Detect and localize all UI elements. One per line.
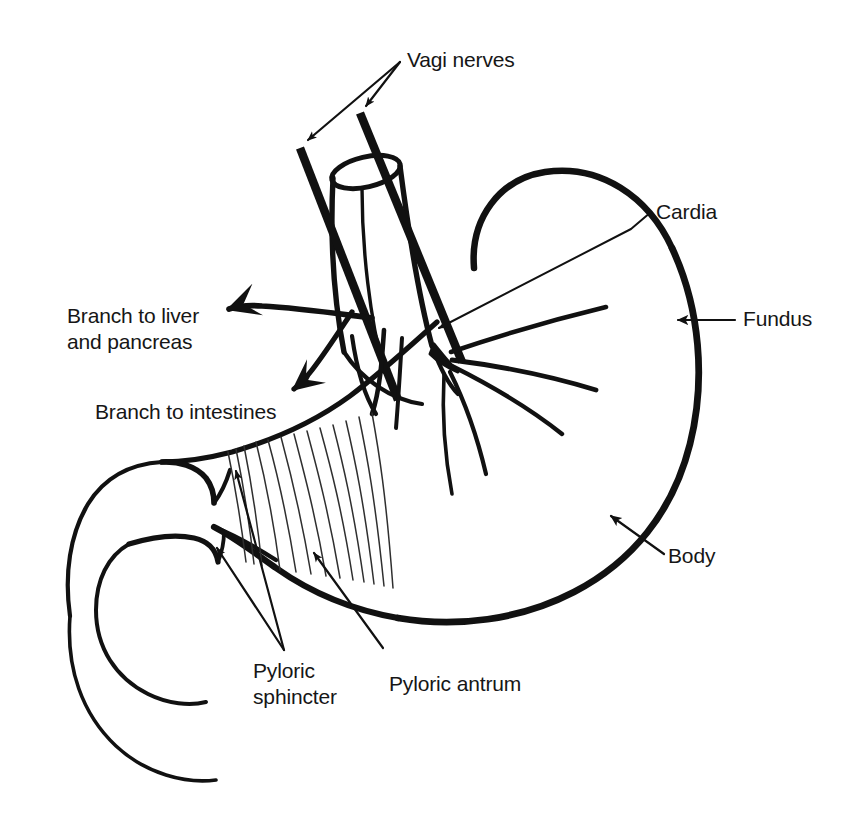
vagi-nerves-leader-right — [366, 62, 400, 106]
vagi-nerves-leader-left — [308, 62, 400, 140]
label-pyloric-antrum: Pyloric antrum — [389, 671, 521, 697]
nerve-branches — [229, 306, 606, 494]
diagram-canvas: Vagi nerves Cardia Fundus Body Branch to… — [0, 0, 846, 821]
stomach-outline — [162, 171, 699, 622]
pyloric-sphincter-upper-inner — [214, 470, 230, 503]
duodenum-inner-curl — [96, 544, 206, 704]
cardia-leader — [439, 212, 651, 328]
label-fundus: Fundus — [743, 306, 812, 332]
label-branch-to-liver-line1: Branch to liver — [67, 303, 199, 329]
label-cardia: Cardia — [656, 199, 717, 225]
duodenum-outer-curl — [69, 616, 216, 781]
nerve-branch-fan-5 — [443, 374, 452, 494]
pyloric-sphincter-and-duodenum — [68, 462, 276, 781]
nerve-branch-fan-4 — [450, 372, 486, 474]
pyloric-sphincter-upper-notch — [162, 462, 214, 503]
label-vagi-nerves: Vagi nerves — [407, 47, 515, 73]
nerve-branch-anterior-gastric-3 — [396, 338, 402, 428]
label-branch-to-intestines: Branch to intestines — [95, 399, 276, 425]
nerve-branch-fan-1 — [451, 307, 606, 352]
label-body: Body — [668, 543, 715, 569]
pyloric-sphincter-lower-notch — [129, 536, 218, 562]
label-pyloric-sphincter-line1: Pyloric — [253, 658, 315, 684]
gastric-rugae — [228, 413, 393, 588]
label-branch-to-liver-line2: and pancreas — [67, 329, 192, 355]
label-pyloric-sphincter-line2: sphincter — [253, 684, 337, 710]
